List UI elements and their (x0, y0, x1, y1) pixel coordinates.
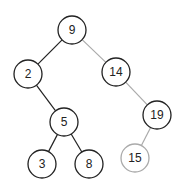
tree-diagram: 92145193815 (0, 0, 182, 190)
tree-node-3: 3 (28, 150, 56, 178)
node-label: 15 (128, 151, 142, 165)
tree-node-15: 15 (121, 144, 149, 172)
edge-5-8 (71, 134, 82, 152)
tree-node-8: 8 (75, 150, 103, 178)
edge-5-3 (48, 134, 57, 151)
node-label: 8 (86, 157, 93, 171)
node-label: 2 (25, 67, 32, 81)
node-label: 5 (61, 115, 68, 129)
tree-node-19: 19 (143, 101, 171, 129)
nodes-group: 92145193815 (14, 16, 171, 178)
edge-9-14 (82, 40, 106, 63)
node-label: 14 (109, 65, 123, 79)
tree-node-14: 14 (102, 58, 130, 86)
node-label: 9 (69, 23, 76, 37)
edges-group (36, 40, 150, 152)
tree-node-5: 5 (50, 108, 78, 136)
edge-9-2 (38, 40, 62, 64)
tree-node-9: 9 (58, 16, 86, 44)
node-label: 3 (39, 157, 46, 171)
edge-19-15 (141, 127, 150, 145)
tree-node-2: 2 (14, 60, 42, 88)
edge-14-19 (126, 82, 148, 105)
edge-2-5 (36, 85, 55, 111)
node-label: 19 (150, 108, 164, 122)
